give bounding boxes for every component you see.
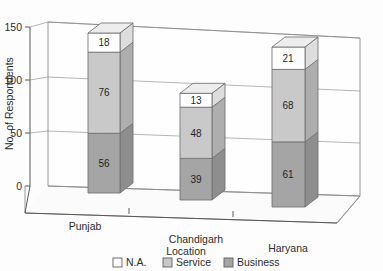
legend-swatch-business (224, 258, 233, 267)
bar-label-chandigarh-service: 48 (190, 128, 202, 139)
x-category-label-haryana: Haryana (268, 242, 308, 254)
bar-label-haryana-na: 21 (282, 53, 294, 64)
y-axis-title: No. of Respondents (3, 57, 15, 150)
x-category-label-chandigarh: Chandigarh (169, 233, 223, 245)
bar-chandigarh-service-side (212, 97, 225, 158)
depth-edge-100 (30, 77, 48, 80)
bar-label-haryana-business: 61 (282, 169, 294, 180)
depth-edge-150 (30, 22, 48, 27)
legend-label-service: Service (176, 256, 211, 268)
legend-label-na: N.A. (126, 256, 146, 268)
legend-swatch-service (163, 258, 172, 267)
bar-haryana-service-side (305, 59, 318, 141)
bar-label-punjab-service: 76 (98, 87, 110, 98)
stacked-bar-chart: 150 100 50 0 No. of Respondents 18 76 (0, 0, 383, 271)
x-category-label-punjab: Punjab (69, 220, 102, 232)
bar-group-punjab: 18 76 56 (88, 23, 133, 193)
bar-label-punjab-na: 18 (98, 37, 110, 48)
bar-group-haryana: 21 68 61 (272, 37, 318, 207)
bar-label-chandigarh-na: 13 (190, 95, 202, 106)
legend-swatch-na (113, 258, 122, 267)
bar-group-chandigarh: 13 48 39 (180, 83, 225, 200)
bar-label-haryana-service: 68 (282, 100, 294, 111)
bar-label-chandigarh-business: 39 (190, 174, 202, 185)
y-tick-label-0: 0 (16, 180, 22, 192)
chart-legend: N.A. Service Business (113, 256, 280, 268)
bar-haryana-business-side (305, 132, 318, 207)
y-tick-label-150: 150 (4, 21, 22, 33)
bar-label-punjab-business: 56 (98, 158, 110, 169)
bar-punjab-business-side (120, 123, 133, 193)
bar-punjab-service-side (120, 42, 133, 133)
chart-container: 150 100 50 0 No. of Respondents 18 76 (0, 0, 383, 271)
legend-label-business: Business (237, 256, 280, 268)
depth-edge-50 (30, 131, 48, 133)
